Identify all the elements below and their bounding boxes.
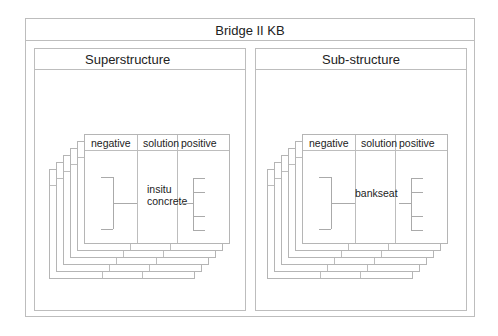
column-label-solution: solution <box>143 137 179 149</box>
panel-header-divider <box>256 69 466 70</box>
positive-branch <box>193 216 205 217</box>
positive-stem <box>399 203 411 204</box>
positive-trunk <box>193 178 194 230</box>
solution-card: negativesolutionpositivebankseat <box>302 134 448 244</box>
column-label-positive: positive <box>181 137 217 149</box>
positive-branch <box>411 192 423 193</box>
solution-text: bankseat <box>355 187 398 199</box>
positive-stem <box>181 203 193 204</box>
negative-branch <box>319 229 331 230</box>
positive-branch <box>411 216 423 217</box>
title-divider <box>26 40 474 41</box>
column-label-solution: solution <box>361 137 397 149</box>
negative-branch <box>101 177 113 178</box>
panel-title: Sub-structure <box>256 52 466 67</box>
column-divider <box>137 135 138 243</box>
column-label-negative: negative <box>309 137 349 149</box>
positive-branch <box>193 192 205 193</box>
solution-card: negativesolutionpositiveinsituconcrete <box>84 134 230 244</box>
negative-branch <box>101 229 113 230</box>
negative-branch <box>319 177 331 178</box>
positive-branch <box>193 230 205 231</box>
positive-branch <box>411 230 423 231</box>
kb-title: Bridge II KB <box>26 23 474 38</box>
panel-title: Superstructure <box>35 52 245 67</box>
card-header-divider <box>303 150 447 151</box>
negative-stem <box>113 203 137 204</box>
positive-branch <box>193 178 205 179</box>
positive-branch <box>411 178 423 179</box>
column-label-negative: negative <box>91 137 131 149</box>
positive-trunk <box>411 178 412 230</box>
column-label-positive: positive <box>399 137 435 149</box>
negative-stem <box>331 203 355 204</box>
card-header-divider <box>85 150 229 151</box>
panel-header-divider <box>35 69 245 70</box>
